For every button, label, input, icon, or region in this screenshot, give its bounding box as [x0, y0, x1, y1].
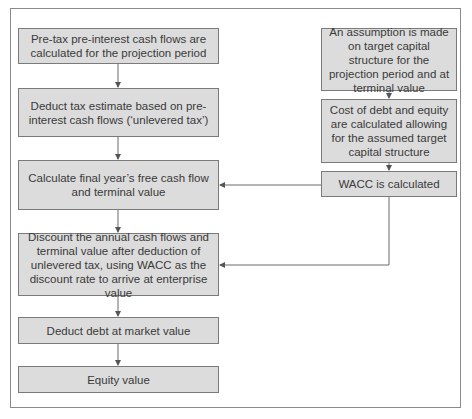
arrow-wacc-to-discount [220, 197, 389, 265]
connectors [0, 0, 472, 419]
